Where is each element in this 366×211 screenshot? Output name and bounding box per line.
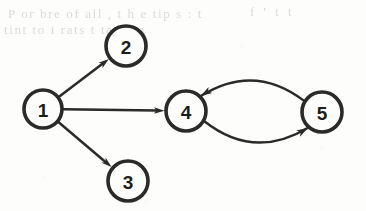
graph-node-4[interactable]: 4 bbox=[166, 91, 206, 131]
edge-1-to-2 bbox=[59, 59, 109, 97]
edge-4-to-5 bbox=[204, 121, 308, 142]
edge-1-to-4 bbox=[64, 107, 165, 114]
node-4-label: 4 bbox=[181, 102, 192, 123]
node-5-label: 5 bbox=[317, 103, 328, 124]
graph-node-5[interactable]: 5 bbox=[302, 92, 342, 132]
edge-1-to-4-line bbox=[64, 109, 157, 110]
edge-4-to-5-curve bbox=[204, 121, 308, 142]
node-2-label: 2 bbox=[121, 37, 132, 58]
graph-node-1[interactable]: 1 bbox=[24, 90, 62, 128]
node-3-label: 3 bbox=[123, 172, 134, 193]
nodes-group: 12345 bbox=[24, 26, 342, 201]
edge-1-to-3 bbox=[59, 122, 112, 167]
edge-1-to-3-line bbox=[59, 122, 106, 162]
edge-5-to-4 bbox=[201, 80, 304, 100]
edge-5-to-4-curve bbox=[201, 80, 304, 100]
graph-node-2[interactable]: 2 bbox=[106, 26, 146, 66]
diagram-canvas: P or bre of all , t h e tip s : t tint t… bbox=[0, 0, 366, 211]
node-1-label: 1 bbox=[38, 100, 49, 121]
edge-1-to-2-line bbox=[59, 64, 102, 97]
directed-graph: 12345 bbox=[0, 0, 366, 211]
graph-node-3[interactable]: 3 bbox=[108, 161, 148, 201]
